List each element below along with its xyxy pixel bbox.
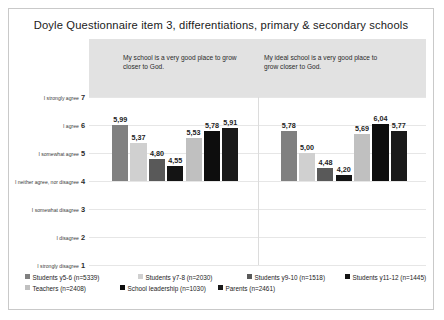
legend-swatch: [138, 274, 143, 279]
plot-area: I strongly agree7I agree6I somewhat agre…: [89, 97, 426, 265]
legend-row: Teachers (n=2408)School leadership (n=10…: [25, 282, 425, 293]
gridline-1: [89, 265, 426, 266]
bar: 6,04: [372, 124, 388, 181]
legend-label: Students y7-8 (n=2030): [146, 274, 213, 281]
y-axis-tick-label: I agree: [63, 123, 79, 129]
legend-swatch: [25, 285, 30, 290]
group-header-1: My ideal school is a very good place to …: [264, 53, 392, 72]
y-axis-tick-1: I strongly disagree1: [37, 261, 85, 270]
bar-value-label: 5,77: [379, 121, 419, 130]
y-axis-tick-label: I strongly disagree: [37, 263, 79, 269]
group-header-0: My school is a very good place to grow c…: [123, 53, 251, 72]
bar-value-label: 5,37: [119, 133, 159, 142]
y-axis-tick-label: I disagree: [57, 235, 79, 241]
bar: 5,78: [204, 131, 220, 181]
y-axis-tick-label: I strongly agree: [44, 95, 79, 101]
y-axis-tick-2: I disagree2: [57, 233, 86, 242]
y-axis-tick-number: 2: [81, 233, 85, 242]
legend-swatch: [345, 274, 350, 279]
y-axis-tick-4: I neither agree, nor disagree4: [15, 177, 85, 186]
legend-item[interactable]: Parents (n=2461): [218, 282, 275, 294]
bar: 5,53: [186, 138, 202, 181]
bar: 5,78: [281, 131, 297, 181]
y-axis-tick-number: 6: [81, 121, 85, 130]
y-axis-tick-label: I somewhat disagree: [32, 207, 79, 213]
group-header-band: My school is a very good place to grow c…: [89, 39, 426, 97]
panel-separator: [258, 97, 259, 265]
y-axis-tick-label: I neither agree, nor disagree: [15, 179, 79, 185]
chart-frame: Doyle Questionnaire item 3, differentiat…: [8, 8, 434, 310]
legend-row: Students y5-6 (n=5339)Students y7-8 (n=2…: [25, 271, 425, 282]
bar-value-label: 5,99: [100, 115, 140, 124]
legend-label: Teachers (n=2408): [33, 285, 86, 292]
bar: 5,69: [354, 134, 370, 181]
y-axis-tick-3: I somewhat disagree3: [32, 205, 85, 214]
y-axis-tick-number: 4: [81, 177, 85, 186]
legend-label: Students y9-10 (n=1518): [255, 274, 326, 281]
legend-swatch: [247, 274, 252, 279]
y-axis-tick-6: I agree6: [63, 121, 85, 130]
legend-swatch: [25, 274, 30, 279]
legend-label: Students y5-6 (n=5339): [33, 274, 100, 281]
chart-legend: Students y5-6 (n=5339)Students y7-8 (n=2…: [25, 271, 425, 293]
legend-label: Parents (n=2461): [226, 285, 276, 292]
bar: 5,77: [391, 131, 407, 181]
y-axis-tick-5: I somewhat agree5: [38, 149, 85, 158]
legend-label: Students y11-12 (n=1445): [353, 274, 427, 281]
legend-item[interactable]: School leadership (n=1030): [120, 282, 206, 294]
bar: 5,91: [222, 128, 238, 181]
bar-value-label: 5,00: [287, 143, 327, 152]
legend-label: School leadership (n=1030): [128, 285, 206, 292]
y-axis-tick-number: 5: [81, 149, 85, 158]
bar-value-label: 5,91: [210, 118, 250, 127]
chart-title: Doyle Questionnaire item 3, differentiat…: [9, 19, 433, 31]
y-axis-tick-number: 1: [81, 261, 85, 270]
legend-item[interactable]: Teachers (n=2408): [25, 282, 86, 294]
bar-value-label: 5,78: [269, 121, 309, 130]
y-axis-tick-number: 7: [81, 93, 85, 102]
legend-swatch: [218, 285, 223, 290]
bar: 4,55: [167, 166, 183, 181]
bar: 4,20: [336, 175, 352, 181]
y-axis-tick-number: 3: [81, 205, 85, 214]
y-axis-tick-7: I strongly agree7: [44, 93, 85, 102]
y-axis-tick-label: I somewhat agree: [38, 151, 79, 157]
legend-swatch: [120, 285, 125, 290]
